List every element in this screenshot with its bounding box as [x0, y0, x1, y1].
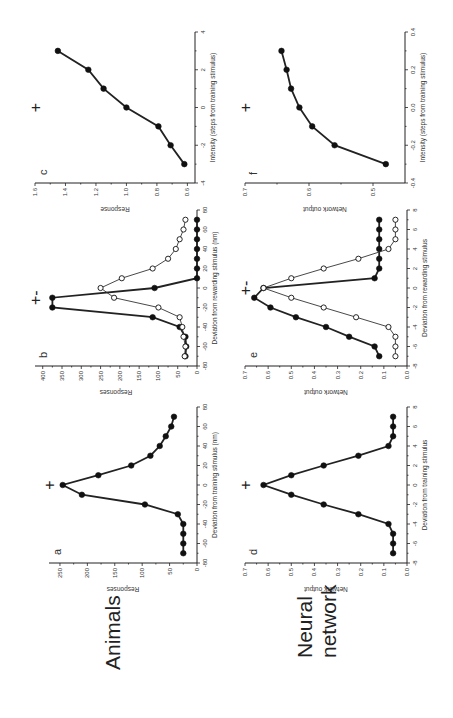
data-point-filled: [171, 414, 177, 420]
data-point-filled: [376, 266, 382, 272]
row-label-neural: Neural: [293, 596, 316, 658]
x-tick-label: -8: [412, 560, 418, 566]
x-axis-label: Intensity (steps from training stimulus): [419, 53, 427, 162]
stimulus-marker: +: [237, 103, 254, 112]
y-tick-label: 1.2: [93, 187, 99, 196]
x-tick-label: -20: [202, 500, 208, 509]
x-tick-label: -4: [412, 324, 418, 330]
series-line-filled: [52, 220, 197, 357]
series-line-open: [264, 220, 396, 357]
data-point-filled: [60, 482, 66, 488]
data-point-filled: [79, 492, 85, 498]
data-point-filled: [128, 463, 134, 469]
data-point-filled: [297, 105, 303, 111]
data-point-filled: [156, 124, 162, 130]
x-tick-label: 2: [412, 266, 418, 270]
data-point-filled: [261, 482, 267, 488]
y-tick-label: 0.5: [288, 370, 294, 379]
y-tick-label: 100: [155, 370, 161, 381]
data-point-filled: [194, 246, 200, 252]
data-point-filled: [142, 502, 148, 508]
data-point-filled: [356, 511, 362, 517]
x-tick-label: 0.2: [410, 65, 416, 74]
x-tick-label: 2: [412, 463, 418, 467]
y-tick-label: 350: [59, 370, 65, 381]
y-tick-label: 0.7: [242, 567, 248, 576]
data-point-filled: [288, 86, 294, 92]
y-axis-label: Network output: [304, 585, 348, 593]
data-point-filled: [194, 236, 200, 242]
y-tick-label: 0.0: [404, 567, 410, 576]
stimulus-marker: +: [41, 480, 58, 489]
data-point-filled: [194, 227, 200, 233]
data-point-filled: [101, 86, 107, 92]
panel-letter: b: [37, 352, 49, 358]
panel-letter: d: [247, 549, 259, 555]
x-tick-label: -4: [200, 180, 206, 186]
y-tick-label: 1.6: [32, 187, 38, 196]
series-line-response: [58, 51, 184, 164]
data-point-filled: [163, 433, 169, 439]
data-point-open: [386, 324, 391, 329]
data-point-filled: [346, 334, 352, 340]
row-label-animals: Animals: [101, 595, 124, 670]
y-tick-label: 0: [194, 567, 200, 571]
y-tick-label: 0.1: [381, 567, 387, 576]
x-tick-label: -40: [202, 519, 208, 528]
rotated-figure: Animals Neural network -80-60-40-2002040…: [0, 0, 453, 718]
data-point-open: [181, 334, 186, 339]
data-point-filled: [55, 48, 61, 54]
x-tick-label: -2: [200, 142, 206, 148]
y-tick-label: 100: [139, 567, 145, 578]
data-point-filled: [148, 453, 154, 459]
data-point-filled: [372, 275, 378, 281]
x-tick-label: -6: [412, 540, 418, 546]
data-point-open: [177, 237, 182, 242]
data-point-filled: [376, 256, 382, 262]
panel-letter: a: [51, 548, 63, 555]
panel-e: -8-6-4-2024680.00.10.20.30.40.50.60.7Dev…: [237, 208, 429, 396]
axes-c: [35, 32, 195, 183]
data-point-filled: [376, 217, 382, 223]
x-tick-label: -20: [202, 303, 208, 312]
x-tick-label: 8: [412, 208, 418, 212]
y-tick-label: 0.1: [381, 370, 387, 379]
data-point-filled: [288, 472, 294, 478]
data-point-filled: [288, 492, 294, 498]
axes-f: [245, 32, 405, 183]
data-point-filled: [279, 48, 285, 54]
stimulus-marker: +-: [27, 290, 44, 305]
x-tick-label: 6: [412, 227, 418, 231]
data-point-open: [177, 315, 182, 320]
x-tick-label: 0: [412, 286, 418, 290]
data-point-open: [180, 324, 185, 329]
y-axis-label: Response: [100, 205, 130, 213]
data-point-filled: [321, 463, 327, 469]
x-tick-label: 4: [412, 247, 418, 251]
data-point-filled: [194, 256, 200, 262]
data-point-filled: [124, 105, 130, 111]
data-point-open: [261, 285, 266, 290]
x-tick-label: 6: [412, 424, 418, 428]
data-point-filled: [390, 550, 396, 556]
data-point-open: [393, 227, 398, 232]
x-tick-label: -80: [202, 361, 208, 370]
data-point-filled: [390, 531, 396, 537]
y-axis-label: Responses: [99, 388, 132, 396]
x-axis-label: Deviation from training stimulus (nm): [211, 432, 219, 538]
x-tick-label: 0: [202, 286, 208, 290]
x-tick-label: 60: [202, 226, 208, 233]
y-tick-label: 300: [78, 370, 84, 381]
data-point-open: [289, 295, 294, 300]
data-point-open: [183, 217, 188, 222]
data-point-filled: [323, 324, 329, 330]
stimulus-marker: +: [237, 480, 254, 489]
y-tick-label: 1.4: [62, 187, 68, 196]
axes-a: [49, 407, 197, 563]
x-tick-label: 4: [412, 444, 418, 448]
data-point-filled: [180, 521, 186, 527]
data-point-filled: [168, 424, 174, 430]
y-tick-label: 0.4: [311, 370, 317, 379]
series-line-open: [101, 220, 186, 357]
series-line-filled: [254, 220, 379, 357]
